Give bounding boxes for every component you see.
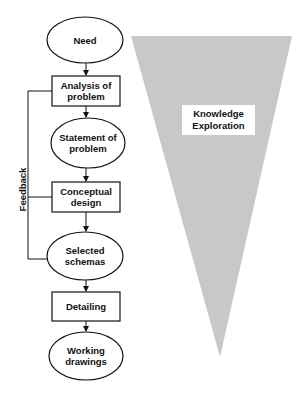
analysis-node: Analysis of problem [52,76,120,106]
knowledge-exploration-label: Knowledge Exploration [182,105,255,135]
need-node: Need [47,17,123,63]
diagram-canvas [0,0,305,395]
detailing-node: Detailing [52,292,120,321]
selected-node: Selected schemas [47,232,123,280]
conceptual-node: Conceptual design [52,182,120,212]
feedback-label: Feedback [17,160,28,220]
statement-node: Statement of problem [51,118,125,168]
working-node: Working drawings [49,332,123,380]
knowledge-triangle [131,36,292,357]
